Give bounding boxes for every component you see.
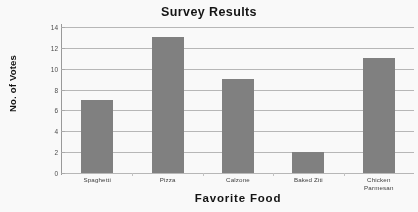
- bar: [363, 58, 395, 173]
- x-tick-mark: [203, 173, 204, 176]
- bar: [152, 37, 184, 173]
- x-tick-label: Pizza: [128, 176, 208, 184]
- y-tick-label: 2: [40, 149, 58, 156]
- gridline: [62, 27, 414, 28]
- chart-title: Survey Results: [0, 5, 418, 19]
- y-tick-label: 4: [40, 128, 58, 135]
- gridline: [62, 48, 414, 49]
- y-tick-label: 6: [40, 107, 58, 114]
- x-tick-label: Baked Ziti: [268, 176, 348, 184]
- plot-area: [62, 27, 414, 173]
- gridline: [62, 69, 414, 70]
- x-tick-label: Calzone: [198, 176, 278, 184]
- y-tick-label: 12: [40, 44, 58, 51]
- y-tick-mark: [61, 27, 65, 28]
- y-tick-mark: [61, 173, 65, 174]
- x-axis-title: Favorite Food: [62, 192, 414, 204]
- bar: [81, 100, 113, 173]
- bar: [292, 152, 324, 173]
- x-axis-line: [61, 173, 414, 174]
- bar: [222, 79, 254, 173]
- y-tick-label: 14: [40, 24, 58, 31]
- y-axis-title: No. of Votes: [7, 44, 18, 124]
- y-tick-mark: [61, 152, 65, 153]
- x-tick-mark: [344, 173, 345, 176]
- y-tick-mark: [61, 110, 65, 111]
- x-tick-label: ChickenParmesan: [339, 176, 418, 192]
- y-tick-label: 0: [40, 170, 58, 177]
- x-tick-mark: [132, 173, 133, 176]
- y-tick-mark: [61, 131, 65, 132]
- x-tick-label: Spaghetti: [57, 176, 137, 184]
- x-tick-mark: [273, 173, 274, 176]
- y-tick-label: 10: [40, 65, 58, 72]
- y-tick-mark: [61, 69, 65, 70]
- y-axis-tick-labels: 14121086420: [38, 27, 58, 173]
- bar-chart: Survey Results No. of Votes 14121086420 …: [0, 0, 418, 212]
- y-tick-mark: [61, 48, 65, 49]
- y-tick-mark: [61, 90, 65, 91]
- y-tick-label: 8: [40, 86, 58, 93]
